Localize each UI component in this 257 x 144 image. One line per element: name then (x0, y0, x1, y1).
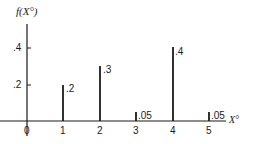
x-tick-label-0: 0 (24, 126, 30, 136)
y-tick-label-0-4: .4 (13, 43, 21, 53)
chart-canvas (0, 0, 257, 144)
y-axis-label: f(X°) (16, 6, 38, 16)
x-tick-label-5: 5 (206, 126, 212, 136)
stem-label-3: .05 (138, 111, 152, 121)
probability-stem-chart: f(X°) X° .2 .4 0 1 2 3 4 5 .2 .3 .05 .4 … (0, 0, 257, 144)
stem-label-4: .4 (175, 47, 183, 57)
x-tick-label-2: 2 (97, 126, 103, 136)
stem-label-1: .2 (66, 84, 74, 94)
stem-label-5: .05 (211, 111, 225, 121)
x-tick-label-3: 3 (133, 126, 139, 136)
x-tick-label-4: 4 (170, 126, 176, 136)
x-tick-label-1: 1 (60, 126, 66, 136)
x-axis-label: X° (229, 115, 239, 125)
stem-label-2: .3 (103, 65, 111, 75)
y-tick-label-0-2: .2 (13, 80, 21, 90)
